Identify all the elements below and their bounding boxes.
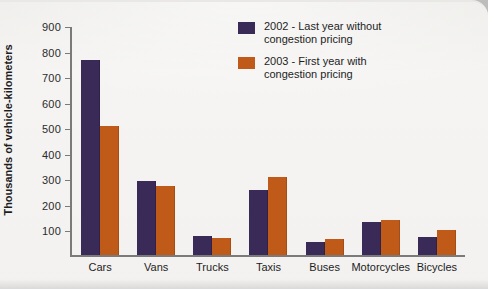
bar[interactable] — [437, 230, 456, 255]
y-tick-mark — [65, 27, 71, 28]
page-bottom-shadow — [0, 279, 488, 289]
x-axis-label: Bicycles — [417, 261, 457, 273]
y-tick-label: 400 — [42, 149, 61, 161]
y-tick-label: 700 — [42, 72, 61, 84]
y-tick-mark — [65, 78, 71, 79]
y-tick-label: 600 — [42, 98, 61, 110]
legend-swatch-icon-2002 — [238, 22, 255, 34]
bar[interactable] — [212, 238, 231, 255]
bar-group: Trucks — [184, 27, 240, 255]
y-tick-label: 500 — [42, 123, 61, 135]
bar[interactable] — [249, 190, 268, 255]
y-tick-label: 100 — [42, 225, 61, 237]
bar-pair — [128, 27, 184, 255]
bar-group: Vans — [128, 27, 184, 255]
x-axis-label: Buses — [309, 261, 340, 273]
bar[interactable] — [381, 220, 400, 255]
y-tick-mark — [65, 155, 71, 156]
legend-label-2002-line1: 2002 - Last year without — [264, 20, 381, 32]
x-axis-label: Vans — [144, 261, 168, 273]
bar-group: Cars — [72, 27, 128, 255]
bar[interactable] — [81, 60, 100, 256]
y-tick-mark — [65, 206, 71, 207]
legend-item-2002: 2002 - Last year without congestion pric… — [238, 20, 458, 46]
x-axis-label: Cars — [88, 261, 111, 273]
bar[interactable] — [193, 236, 212, 255]
bar[interactable] — [418, 237, 437, 255]
y-tick-mark — [65, 129, 71, 130]
scanned-page: Thousands of vehicle-kilometers 10020030… — [0, 0, 488, 289]
bar[interactable] — [325, 239, 344, 255]
bar-pair — [72, 27, 128, 255]
legend-swatch-icon-2003 — [238, 57, 255, 69]
y-tick-label: 200 — [42, 200, 61, 212]
legend-label-2003-line2: congestion pricing — [264, 68, 353, 80]
y-tick-mark — [65, 231, 71, 232]
y-axis-title: Thousands of vehicle-kilometers — [2, 44, 14, 215]
bar[interactable] — [156, 186, 175, 255]
x-axis-label: Motorcycles — [351, 261, 410, 273]
y-tick-mark — [65, 180, 71, 181]
bar[interactable] — [268, 177, 287, 255]
legend-label-2002: 2002 - Last year without congestion pric… — [264, 20, 381, 46]
bar[interactable] — [137, 181, 156, 255]
bar[interactable] — [100, 126, 119, 255]
y-tick-label: 300 — [42, 174, 61, 186]
x-axis-line — [70, 255, 465, 257]
x-axis-label: Taxis — [256, 261, 281, 273]
y-tick-mark — [65, 53, 71, 54]
legend-label-2002-line2: congestion pricing — [264, 33, 353, 45]
bar[interactable] — [362, 222, 381, 255]
y-tick-label: 900 — [42, 21, 61, 33]
y-tick-label: 800 — [42, 47, 61, 59]
legend-item-2003: 2003 - First year with congestion pricin… — [238, 55, 458, 81]
chart-legend: 2002 - Last year without congestion pric… — [238, 20, 458, 90]
bar-pair — [184, 27, 240, 255]
y-tick-mark — [65, 104, 71, 105]
bar[interactable] — [306, 242, 325, 255]
legend-label-2003: 2003 - First year with congestion pricin… — [264, 55, 367, 81]
x-axis-label: Trucks — [196, 261, 229, 273]
legend-label-2003-line1: 2003 - First year with — [264, 55, 367, 67]
